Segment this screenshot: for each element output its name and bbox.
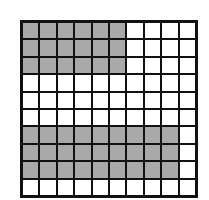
shaded-cell — [144, 161, 161, 178]
shaded-cell — [109, 161, 126, 178]
empty-cell — [161, 39, 178, 56]
empty-cell — [144, 57, 161, 74]
shaded-cell — [22, 22, 39, 39]
empty-cell — [126, 92, 143, 109]
shaded-cell — [57, 144, 74, 161]
empty-cell — [109, 179, 126, 196]
shaded-cell — [74, 126, 91, 143]
shaded-cell — [126, 161, 143, 178]
empty-cell — [109, 92, 126, 109]
empty-cell — [39, 179, 56, 196]
shaded-cell — [161, 144, 178, 161]
shaded-cell — [144, 126, 161, 143]
empty-cell — [57, 74, 74, 91]
empty-cell — [179, 109, 196, 126]
empty-cell — [109, 109, 126, 126]
empty-cell — [179, 39, 196, 56]
shaded-cell — [57, 161, 74, 178]
shaded-cell — [74, 144, 91, 161]
shaded-cell — [74, 22, 91, 39]
empty-cell — [74, 109, 91, 126]
empty-cell — [22, 179, 39, 196]
empty-cell — [126, 74, 143, 91]
empty-cell — [126, 179, 143, 196]
empty-cell — [179, 57, 196, 74]
empty-cell — [179, 179, 196, 196]
empty-cell — [144, 22, 161, 39]
empty-cell — [39, 74, 56, 91]
shaded-cell — [39, 144, 56, 161]
empty-cell — [126, 57, 143, 74]
shaded-cell — [126, 144, 143, 161]
empty-cell — [126, 109, 143, 126]
shaded-cell — [22, 57, 39, 74]
shaded-cell — [39, 39, 56, 56]
shaded-cell — [22, 161, 39, 178]
empty-cell — [161, 22, 178, 39]
empty-cell — [161, 179, 178, 196]
empty-cell — [92, 109, 109, 126]
shaded-cell — [22, 144, 39, 161]
shaded-cell — [74, 57, 91, 74]
empty-cell — [144, 92, 161, 109]
shaded-cell — [161, 161, 178, 178]
shaded-cell — [126, 126, 143, 143]
empty-cell — [57, 92, 74, 109]
shaded-cell — [92, 126, 109, 143]
empty-cell — [109, 74, 126, 91]
empty-cell — [144, 74, 161, 91]
shaded-cell — [109, 22, 126, 39]
empty-cell — [22, 109, 39, 126]
shaded-cell — [92, 22, 109, 39]
shaded-cell — [39, 161, 56, 178]
shaded-cell — [109, 144, 126, 161]
empty-cell — [179, 161, 196, 178]
empty-cell — [161, 74, 178, 91]
empty-cell — [92, 179, 109, 196]
empty-cell — [179, 92, 196, 109]
shaded-cell — [57, 57, 74, 74]
empty-cell — [161, 57, 178, 74]
shaded-cell — [92, 144, 109, 161]
empty-cell — [92, 92, 109, 109]
shaded-cell — [22, 126, 39, 143]
shaded-cell — [92, 57, 109, 74]
shaded-cell — [161, 126, 178, 143]
empty-cell — [74, 92, 91, 109]
empty-cell — [179, 126, 196, 143]
shaded-cell — [109, 39, 126, 56]
empty-cell — [22, 92, 39, 109]
hundred-grid — [20, 20, 198, 198]
empty-cell — [144, 39, 161, 56]
empty-cell — [74, 179, 91, 196]
shaded-cell — [74, 161, 91, 178]
shaded-cell — [39, 57, 56, 74]
shaded-cell — [39, 126, 56, 143]
shaded-cell — [57, 39, 74, 56]
empty-cell — [126, 22, 143, 39]
empty-cell — [22, 74, 39, 91]
empty-cell — [161, 92, 178, 109]
empty-cell — [39, 92, 56, 109]
shaded-cell — [92, 161, 109, 178]
shaded-cell — [109, 126, 126, 143]
empty-cell — [92, 74, 109, 91]
shaded-cell — [39, 22, 56, 39]
empty-cell — [179, 144, 196, 161]
empty-cell — [57, 109, 74, 126]
empty-cell — [179, 74, 196, 91]
empty-cell — [126, 39, 143, 56]
shaded-cell — [57, 126, 74, 143]
shaded-cell — [57, 22, 74, 39]
empty-cell — [144, 179, 161, 196]
shaded-cell — [74, 39, 91, 56]
shaded-cell — [92, 39, 109, 56]
empty-cell — [161, 109, 178, 126]
shaded-cell — [109, 57, 126, 74]
empty-cell — [179, 22, 196, 39]
shaded-cell — [22, 39, 39, 56]
empty-cell — [57, 179, 74, 196]
empty-cell — [39, 109, 56, 126]
empty-cell — [74, 74, 91, 91]
shaded-cell — [144, 144, 161, 161]
